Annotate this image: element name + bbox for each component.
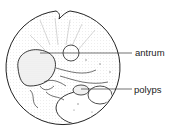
endoscopic-diagram [0,0,174,131]
label-polyps: polyps [134,85,161,95]
polyp [73,85,89,95]
label-antrum: antrum [135,48,165,58]
